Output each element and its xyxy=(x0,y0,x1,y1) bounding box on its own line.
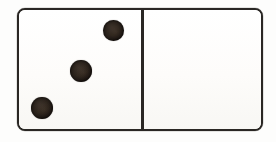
pip-top-right xyxy=(103,20,124,41)
domino-half-left xyxy=(19,10,141,129)
domino-half-right xyxy=(144,10,260,129)
domino-divider-line xyxy=(141,10,143,129)
pip-middle xyxy=(70,60,92,82)
domino-tile[interactable] xyxy=(17,8,263,131)
pip-bottom-left xyxy=(31,97,53,119)
domino-scene xyxy=(0,0,276,142)
